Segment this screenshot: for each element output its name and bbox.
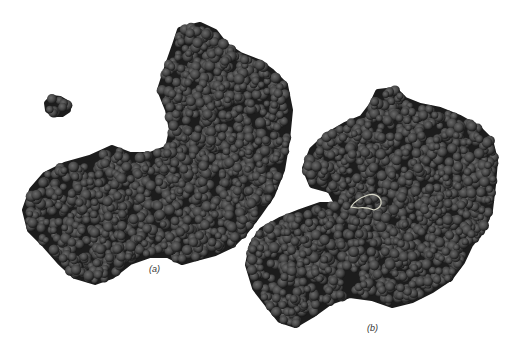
figure: (a) (b) xyxy=(0,0,523,352)
ligand-cluster-a xyxy=(46,94,72,117)
panel-label-a: (a) xyxy=(149,264,160,274)
panel-label-b: (b) xyxy=(367,323,378,333)
molecular-models xyxy=(0,0,523,352)
